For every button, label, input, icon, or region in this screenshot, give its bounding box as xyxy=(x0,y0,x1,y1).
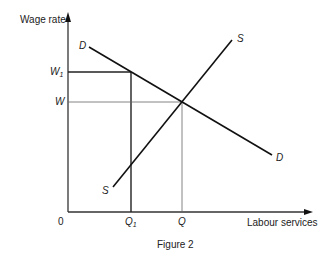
supply-start-label: S xyxy=(102,186,109,196)
x-axis-arrow-icon xyxy=(304,209,313,215)
y-axis-label: Wage rate xyxy=(20,15,66,25)
x-axis-label: Labour services xyxy=(247,218,318,228)
q-tick-label: Q xyxy=(178,217,186,227)
w1-tick-label: W1 xyxy=(50,67,63,78)
demand-start-label: D xyxy=(79,41,86,51)
w-tick-label: W xyxy=(55,97,64,107)
demand-end-label: D xyxy=(276,153,283,163)
origin-label: 0 xyxy=(58,217,64,227)
figure-caption: Figure 2 xyxy=(157,240,194,250)
demand-curve xyxy=(89,47,272,155)
q1-tick-label: Q1 xyxy=(125,217,137,228)
supply-end-label: S xyxy=(237,34,244,44)
